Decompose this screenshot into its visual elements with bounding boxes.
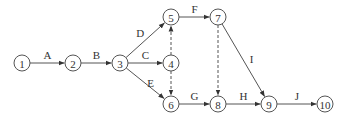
event-node-1: 1: [14, 55, 30, 71]
nodes-layer: 12345678910: [14, 9, 333, 112]
event-node-5: 5: [163, 9, 179, 25]
activity-label-I: I: [250, 53, 254, 65]
activity-label-D: D: [136, 27, 144, 39]
activity-arrow-7-9: [222, 24, 265, 97]
event-node-label: 3: [117, 58, 123, 70]
event-node-label: 2: [70, 58, 76, 70]
event-node-2: 2: [65, 55, 81, 71]
event-node-label: 7: [215, 12, 221, 24]
event-node-10: 10: [317, 96, 333, 112]
event-node-label: 9: [266, 99, 272, 111]
activity-arrow-3-6: [126, 68, 164, 99]
event-node-label: 5: [168, 12, 174, 24]
activity-label-H: H: [240, 90, 248, 102]
activity-label-J: J: [295, 90, 300, 102]
activity-label-G: G: [191, 90, 199, 102]
event-node-label: 4: [168, 58, 174, 70]
event-node-6: 6: [163, 96, 179, 112]
event-node-label: 8: [215, 99, 221, 111]
network-diagram: ABDCEFGIHJ 12345678910: [0, 0, 347, 127]
event-node-8: 8: [210, 96, 226, 112]
event-node-label: 1: [19, 58, 25, 70]
activity-label-F: F: [191, 3, 197, 15]
activity-label-E: E: [147, 77, 154, 89]
event-node-label: 10: [320, 99, 332, 111]
event-node-9: 9: [261, 96, 277, 112]
event-node-7: 7: [210, 9, 226, 25]
activity-label-B: B: [93, 49, 100, 61]
event-node-label: 6: [168, 99, 174, 111]
event-node-3: 3: [112, 55, 128, 71]
activity-label-C: C: [142, 49, 149, 61]
event-node-4: 4: [163, 55, 179, 71]
activity-label-A: A: [44, 49, 52, 61]
